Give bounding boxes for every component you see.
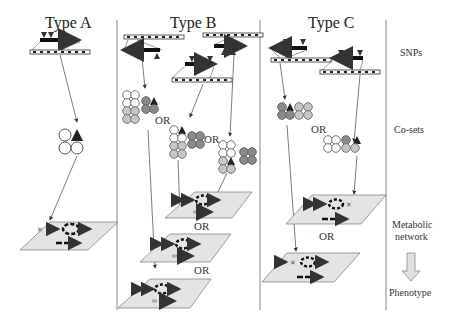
label-cosets: Co-sets — [394, 124, 424, 135]
type-b-snps-3 — [203, 33, 263, 55]
type-b-network-3 — [118, 279, 211, 308]
or-b-1: OR — [155, 114, 171, 126]
type-b-snps-1 — [124, 35, 184, 59]
type-a-coset — [59, 129, 83, 154]
type-c-coset-2 — [324, 136, 361, 153]
type-c-snps-1 — [271, 39, 331, 62]
label-metabolic: Metabolic — [392, 219, 433, 230]
title-type-b: Type B — [170, 14, 216, 32]
or-b-4: OR — [194, 264, 210, 276]
type-c-network-1: ✕ — [286, 195, 386, 224]
down-arrow-icon — [402, 253, 420, 281]
type-b-network-1 — [165, 192, 252, 218]
label-network: network — [395, 231, 428, 242]
or-b-3: OR — [194, 220, 210, 232]
svg-text:✕: ✕ — [37, 226, 43, 234]
type-a-network: ✕ — [20, 222, 118, 250]
type-b-coset-3 — [219, 141, 257, 174]
type-b-snps-2 — [172, 56, 232, 82]
label-phenotype: Phenotype — [389, 287, 432, 298]
title-type-a: Type A — [45, 14, 92, 32]
svg-text:✕: ✕ — [346, 201, 352, 209]
svg-text:✕: ✕ — [290, 259, 296, 267]
diagram-canvas: Type A Type B Type C SNPs Co-sets Metabo… — [0, 0, 449, 322]
type-c-network-2: ✕ — [262, 253, 360, 282]
or-c-2: OR — [319, 230, 335, 242]
or-b-2: OR — [204, 133, 220, 145]
label-snps: SNPs — [400, 47, 422, 58]
type-b-coset-1 — [123, 91, 159, 124]
type-a-snps — [30, 32, 90, 54]
or-c-1: OR — [311, 123, 327, 135]
type-c-coset-1 — [278, 103, 313, 120]
title-type-c: Type C — [308, 14, 354, 32]
type-b-coset-2 — [170, 126, 205, 159]
